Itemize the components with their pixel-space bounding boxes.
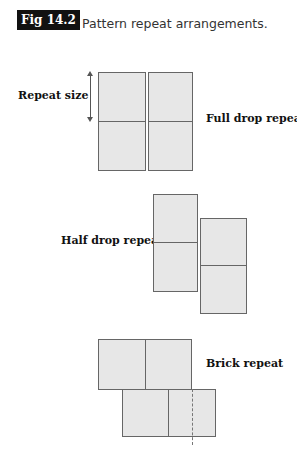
- repeat-size-label: Repeat size: [18, 89, 89, 102]
- brick-tile-2: [145, 339, 192, 390]
- full-drop-tile-3: [148, 72, 193, 122]
- full-drop-tile-2: [98, 121, 146, 171]
- full-drop-tile-1: [98, 72, 146, 122]
- half-drop-label: Half drop repeat: [61, 234, 163, 247]
- brick-tile-3: [122, 389, 169, 437]
- brick-label: Brick repeat: [206, 357, 283, 370]
- half-drop-tile-2: [153, 242, 198, 292]
- brick-dashed-line: [192, 389, 193, 445]
- figure-badge: Fig 14.2: [17, 10, 80, 30]
- full-drop-tile-4: [148, 121, 193, 171]
- half-drop-tile-4: [200, 265, 247, 314]
- brick-tile-1: [98, 339, 146, 390]
- arrow-down-icon: [87, 117, 93, 122]
- half-drop-tile-3: [200, 218, 247, 266]
- half-drop-tile-1: [153, 194, 198, 243]
- repeat-size-arrow: [90, 74, 91, 119]
- full-drop-label: Full drop repeat: [206, 112, 297, 125]
